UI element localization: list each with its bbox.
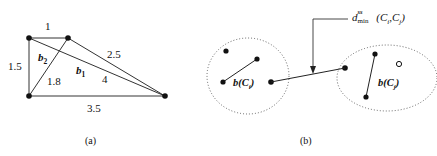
caption-panel-b: (b) <box>300 136 312 146</box>
leader-line <box>313 19 348 68</box>
min-distance-label: dssmin (Ci,Cj) <box>352 12 405 26</box>
cluster-right-label-close: ) <box>396 77 400 88</box>
cluster-left-boundary <box>207 38 289 114</box>
min-distance-superscript: ss <box>358 9 363 16</box>
figure-container: 1 1.5 1.8 2.5 4 3.5 b2 b1 (a) <box>0 0 437 156</box>
cluster-left-point-b <box>254 56 259 61</box>
cluster-left-point-extra <box>223 48 228 53</box>
cluster-right-point-a <box>363 94 368 99</box>
cluster-right-diameter-segment <box>366 54 375 97</box>
cluster-right-hollow-point <box>396 61 401 66</box>
min-distance-arg-open: (C <box>376 11 387 23</box>
cluster-left-point-a <box>220 79 225 84</box>
min-distance-segment <box>271 68 345 82</box>
min-distance-arg-close: ) <box>401 11 405 23</box>
cluster-right-label: b(Cj) <box>378 78 399 91</box>
min-distance-subscript: min <box>358 18 369 25</box>
cluster-right-label-open: (C <box>383 77 394 88</box>
cluster-left-label-open: (C <box>238 77 249 88</box>
cluster-right-point-b <box>372 51 377 56</box>
cluster-left-label: b(Ci) <box>233 78 254 91</box>
cluster-left-label-close: ) <box>251 77 255 88</box>
min-distance-arg-comma: ,C <box>389 11 399 23</box>
leader-arrowhead-icon <box>310 66 316 74</box>
min-distance-arguments: (Ci,Cj) <box>376 11 405 23</box>
